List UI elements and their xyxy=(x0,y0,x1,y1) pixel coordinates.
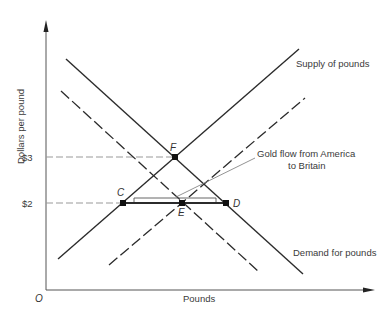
point-c-marker xyxy=(120,200,126,206)
point-d-marker xyxy=(223,200,229,206)
y-axis-label: Dollars per pound xyxy=(15,89,26,164)
point-e-label: E xyxy=(178,207,185,218)
gold-flow-label-line1: Gold flow from America xyxy=(257,148,356,159)
gold-flow-label-line2: to Britain xyxy=(288,160,326,171)
point-e-marker xyxy=(179,200,185,206)
point-f-label: F xyxy=(170,142,177,153)
exchange-rate-diagram: F C E D $3 $2 Dollars per pound Pounds O… xyxy=(0,0,392,316)
x-axis-arrow-icon xyxy=(363,288,375,293)
origin-label: O xyxy=(35,293,43,304)
point-c-label: C xyxy=(117,187,125,198)
x-axis-label: Pounds xyxy=(183,293,215,304)
y-tick-2: $2 xyxy=(22,198,33,209)
demand-label: Demand for pounds xyxy=(293,247,377,258)
demand-curve-shifted xyxy=(61,91,258,271)
demand-curve xyxy=(66,59,303,274)
point-d-label: D xyxy=(233,198,240,209)
supply-label: Supply of pounds xyxy=(296,58,370,69)
y-axis-arrow-icon xyxy=(44,20,49,32)
point-f-marker xyxy=(172,154,178,160)
annotation-leader xyxy=(176,158,255,197)
gold-flow-bracket xyxy=(134,198,216,202)
